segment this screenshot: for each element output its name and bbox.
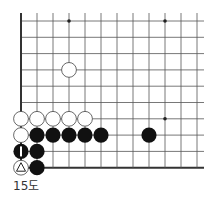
black-stone — [77, 128, 92, 143]
black-stone-body — [45, 128, 60, 143]
black-stone-body — [141, 128, 156, 143]
white-stone — [14, 160, 29, 175]
star-point — [163, 19, 167, 23]
white-stone-body — [78, 111, 93, 126]
go-board — [0, 0, 222, 197]
bar-mark-icon — [20, 146, 22, 156]
star-point — [163, 117, 167, 121]
black-stone — [29, 144, 44, 159]
black-stone-body — [29, 160, 44, 175]
white-stone-body — [14, 128, 29, 143]
white-stone — [30, 111, 45, 126]
black-stone-body — [61, 128, 76, 143]
white-stone-body — [46, 111, 61, 126]
white-stone — [14, 111, 29, 126]
white-stone — [78, 111, 93, 126]
star-point — [67, 19, 71, 23]
black-stone — [45, 128, 60, 143]
black-stone — [13, 144, 28, 159]
white-stone — [62, 63, 77, 78]
white-stone-body — [30, 111, 45, 126]
diagram-caption: 15도 — [13, 176, 39, 193]
white-stone — [14, 128, 29, 143]
white-stone-body — [14, 111, 29, 126]
black-stone — [61, 128, 76, 143]
white-stone — [62, 111, 77, 126]
white-stone — [46, 111, 61, 126]
black-stone — [29, 160, 44, 175]
black-stone-body — [93, 128, 108, 143]
grid-lines — [21, 13, 204, 168]
black-stone-body — [29, 144, 44, 159]
white-stone-body — [62, 111, 77, 126]
black-stone-body — [29, 128, 44, 143]
black-stone — [93, 128, 108, 143]
black-stone-body — [77, 128, 92, 143]
black-stone — [141, 128, 156, 143]
white-stone-body — [62, 63, 77, 78]
black-stone — [29, 128, 44, 143]
